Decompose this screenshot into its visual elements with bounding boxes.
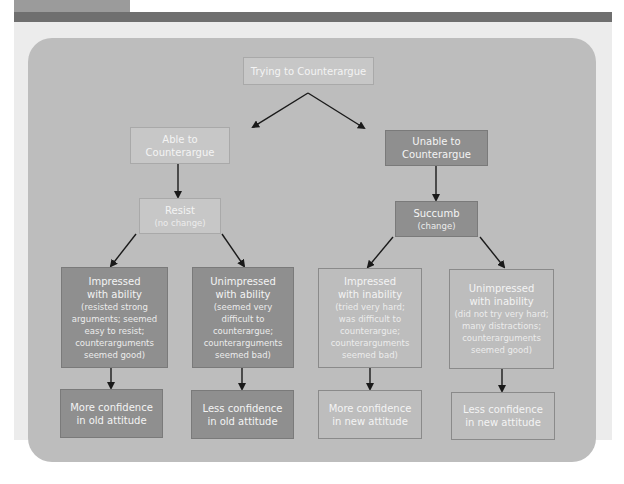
unable-label-line2: Counterargue [402, 148, 471, 161]
node-detail-line: difficult to [222, 313, 265, 325]
node-detail-line: counterarguments [331, 337, 410, 349]
result-less-old: Less confidence in old attitude [191, 390, 294, 439]
succumb-node: Succumb (change) [395, 201, 478, 237]
node-title-line: with ability [87, 288, 142, 301]
able-node: Able to Counterargue [130, 127, 230, 164]
node-detail-line: counterargue; [340, 325, 400, 337]
node-title-line: Impressed [344, 275, 396, 288]
result-line: More confidence [70, 401, 153, 414]
result-more-new: More confidence in new attitude [318, 390, 422, 439]
node-detail-line: seemed good) [471, 344, 532, 356]
impressed-inability-node: Impressed with inability (tried very har… [318, 268, 422, 368]
succumb-sub: (change) [418, 220, 456, 232]
result-line: in old attitude [207, 415, 277, 428]
able-label-line1: Able to [162, 133, 197, 146]
unable-node: Unable to Counterargue [385, 130, 488, 166]
able-label-line2: Counterargue [146, 146, 215, 159]
node-detail-line: counterarguments [75, 337, 154, 349]
node-detail-line: many distractions; [462, 320, 541, 332]
result-more-old: More confidence in old attitude [60, 389, 163, 438]
node-title-line: Unimpressed [469, 282, 535, 295]
result-line: in new attitude [332, 415, 408, 428]
result-line: More confidence [329, 402, 412, 415]
result-line: Less confidence [463, 403, 543, 416]
resist-title: Resist [165, 204, 195, 217]
node-title-line: with inability [338, 288, 402, 301]
node-detail-line: counterargue; [213, 325, 273, 337]
node-detail-line: seemed good) [84, 349, 145, 361]
node-detail-line: counterarguments [462, 332, 541, 344]
result-line: in new attitude [465, 416, 541, 429]
node-detail-line: (tried very hard; [335, 301, 405, 313]
node-detail-line: seemed bad) [342, 349, 398, 361]
unimpressed-ability-node: Unimpressed with ability (seemed very di… [192, 267, 294, 368]
node-detail-line: (seemed very [214, 301, 273, 313]
root-node: Trying to Counterargue [243, 57, 374, 85]
node-detail-line: easy to resist; [85, 325, 145, 337]
node-detail-line: counterarguments [204, 337, 283, 349]
node-title-line: Unimpressed [210, 275, 276, 288]
node-title-line: with ability [215, 288, 270, 301]
node-title-line: with inability [469, 295, 533, 308]
unable-label-line1: Unable to [412, 135, 460, 148]
result-line: Less confidence [203, 402, 283, 415]
result-less-new: Less confidence in new attitude [451, 392, 555, 440]
impressed-ability-node: Impressed with ability (resisted strong … [61, 267, 168, 368]
node-title-line: Impressed [88, 275, 140, 288]
node-detail-line: was difficult to [339, 313, 401, 325]
node-detail-line: (did not try very hard; [454, 308, 548, 320]
unimpressed-inability-node: Unimpressed with inability (did not try … [449, 269, 554, 369]
result-line: in old attitude [76, 414, 146, 427]
node-detail-line: arguments; seemed [72, 313, 157, 325]
root-label: Trying to Counterargue [251, 65, 366, 78]
resist-sub: (no change) [154, 217, 205, 229]
resist-node: Resist (no change) [139, 198, 221, 234]
node-detail-line: (resisted strong [81, 301, 148, 313]
succumb-title: Succumb [413, 207, 459, 220]
node-detail-line: seemed bad) [215, 349, 271, 361]
